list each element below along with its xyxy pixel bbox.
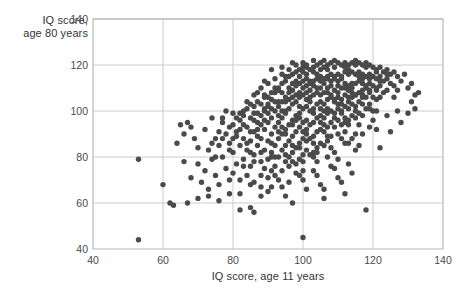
data-point [353,92,358,97]
data-point [174,141,179,146]
data-point [244,173,249,178]
data-point [188,124,193,129]
data-point [321,143,326,148]
data-point [325,90,330,95]
data-point [363,60,368,65]
data-point [283,193,288,198]
data-point [328,120,333,125]
data-point [409,99,414,104]
data-point [216,143,221,148]
data-point [241,113,246,118]
data-point [276,99,281,104]
data-point [293,129,298,134]
y-tick-label-140: 140 [62,13,88,25]
data-point [258,150,263,155]
data-point [353,115,358,120]
data-point [328,83,333,88]
data-point [325,67,330,72]
data-point [255,90,260,95]
data-point [321,115,326,120]
data-point [269,67,274,72]
data-point [318,92,323,97]
data-point [223,131,228,136]
data-point [307,78,312,83]
data-point [405,85,410,90]
data-point [328,78,333,83]
data-point [279,168,284,173]
data-point [346,67,351,72]
data-point [367,124,372,129]
data-point [269,168,274,173]
data-point [237,177,242,182]
data-point [384,113,389,118]
data-point [244,106,249,111]
data-point [311,106,316,111]
data-point [405,111,410,116]
data-point [402,72,407,77]
data-point [300,235,305,240]
data-point [279,65,284,70]
data-point [300,60,305,65]
data-point [332,166,337,171]
data-point [395,88,400,93]
data-point [286,138,291,143]
data-point [314,145,319,150]
data-point [293,170,298,175]
data-point [272,124,277,129]
data-point [332,74,337,79]
data-point [290,122,295,127]
data-point [297,104,302,109]
data-point [251,111,256,116]
data-point [353,108,358,113]
data-point [223,166,228,171]
data-point [360,88,365,93]
data-point [360,95,365,100]
data-point [300,69,305,74]
data-point [265,175,270,180]
data-point [220,120,225,125]
data-point [293,99,298,104]
data-point [332,124,337,129]
data-point [290,134,295,139]
data-point [227,141,232,146]
x-tick-label-120: 120 [358,254,388,266]
data-point [178,122,183,127]
data-point [234,115,239,120]
data-point [283,108,288,113]
data-point [374,69,379,74]
x-axis-title: IQ score, age 11 years [93,270,443,283]
data-point [332,58,337,63]
data-point [388,129,393,134]
data-point [286,67,291,72]
data-point [342,141,347,146]
data-point [276,129,281,134]
data-point [290,60,295,65]
data-point [398,120,403,125]
data-point [391,95,396,100]
data-point [321,196,326,201]
data-point [227,147,232,152]
data-point [290,150,295,155]
data-point [297,115,302,120]
data-point [377,65,382,70]
data-point [304,83,309,88]
data-point [297,124,302,129]
data-point [248,150,253,155]
data-point [234,161,239,166]
data-point [321,101,326,106]
data-point [213,154,218,159]
data-point [290,95,295,100]
data-point [342,129,347,134]
data-point [307,88,312,93]
data-point [251,118,256,123]
data-point [248,182,253,187]
data-point [255,143,260,148]
x-tick-label-40: 40 [78,254,108,266]
data-point [237,143,242,148]
data-point [262,166,267,171]
data-point [227,191,232,196]
y-tick-label-120: 120 [62,59,88,71]
data-point [304,97,309,102]
data-point [258,101,263,106]
data-point [304,147,309,152]
